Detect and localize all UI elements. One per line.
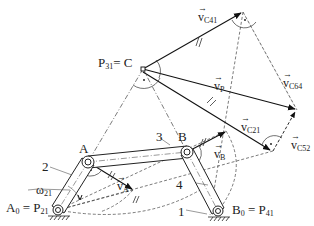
- label-vC21: →vC21: [241, 121, 260, 135]
- label-point-B0: B0 = P41: [232, 203, 274, 218]
- label-link-2: 2: [42, 160, 49, 173]
- label-point-C: P31= C: [98, 56, 133, 71]
- linkage-diagram: P31= C A B A0 = P21 B0 = P41 2 3 4 1 ω21…: [0, 0, 314, 226]
- label-link-4: 4: [176, 178, 183, 191]
- label-link-1: 1: [178, 205, 185, 218]
- vector-vC41: [143, 13, 241, 69]
- label-vA: →vA: [117, 180, 129, 194]
- link-3: [88, 146, 188, 168]
- label-point-A: A: [79, 142, 88, 155]
- label-vB: →vB: [214, 148, 225, 162]
- label-vC64: →vC64: [283, 77, 302, 91]
- ground-supports: [48, 216, 230, 221]
- label-link-3: 3: [156, 130, 163, 143]
- label-point-A0: A0 = P21: [6, 201, 48, 216]
- label-vP: →vP: [214, 80, 224, 94]
- label-vC52: →vC52: [291, 139, 310, 153]
- label-vC41: →vC41: [198, 11, 217, 25]
- label-point-B: B: [178, 130, 187, 143]
- label-omega21: ω21: [36, 184, 52, 198]
